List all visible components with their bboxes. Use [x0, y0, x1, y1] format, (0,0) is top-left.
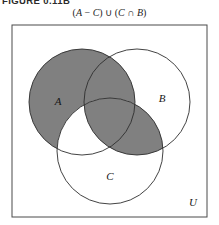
caption-set-c-second: C	[118, 7, 125, 18]
figure-number-label: FIGURE 0.11B	[2, 0, 70, 4]
venn-diagram-svg: A B C U	[11, 24, 208, 218]
set-label-c: C	[106, 170, 114, 182]
set-label-b: B	[159, 92, 166, 104]
figure-container: FIGURE 0.11B (A − C) ∪ (C ∩ B)	[0, 0, 219, 225]
caption-union-operator: ∪	[103, 7, 115, 18]
venn-diagram: A B C U	[11, 24, 208, 218]
figure-caption: (A − C) ∪ (C ∩ B)	[0, 7, 219, 18]
caption-close-paren-2: )	[143, 7, 146, 18]
set-label-a: A	[54, 95, 62, 107]
universe-label-u: U	[189, 196, 198, 208]
caption-minus-operator: −	[82, 7, 93, 18]
caption-intersect-operator: ∩	[125, 7, 137, 18]
